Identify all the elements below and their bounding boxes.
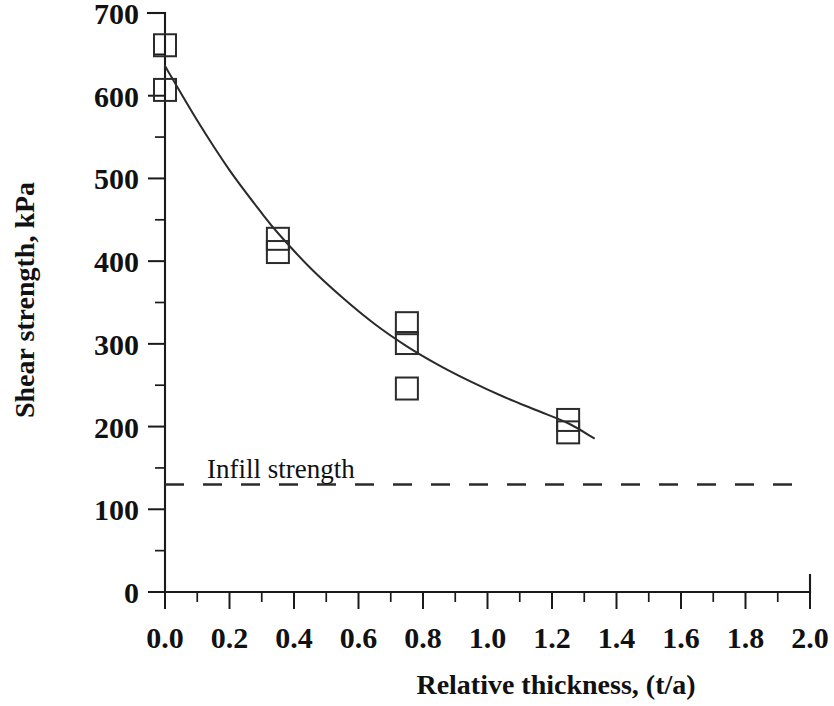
y-tick-label: 0 bbox=[124, 576, 139, 609]
y-axis-title: Shear strength, kPa bbox=[9, 182, 40, 418]
infill-strength-annotation: Infill strength bbox=[165, 454, 810, 485]
data-point-marker bbox=[396, 312, 418, 334]
x-tick-label: 1.0 bbox=[469, 621, 507, 654]
x-tick-label: 2.0 bbox=[791, 621, 829, 654]
y-tick-label: 600 bbox=[94, 80, 139, 113]
y-tick-label: 100 bbox=[94, 493, 139, 526]
y-tick-label: 500 bbox=[94, 162, 139, 195]
x-axis-title: Relative thickness, (t/a) bbox=[416, 669, 695, 700]
figure-container: 0100200300400500600700 0.00.20.40.60.81.… bbox=[0, 0, 834, 706]
y-tick-label: 400 bbox=[94, 245, 139, 278]
infill-strength-label: Infill strength bbox=[207, 454, 355, 484]
y-tick-label: 700 bbox=[94, 0, 139, 30]
data-point-markers bbox=[154, 34, 579, 443]
y-tick-label: 200 bbox=[94, 411, 139, 444]
data-point-marker bbox=[557, 421, 579, 443]
x-axis-ticks: 0.00.20.40.60.81.01.21.41.61.82.0 bbox=[146, 592, 829, 654]
x-tick-label: 1.8 bbox=[727, 621, 765, 654]
data-point-marker bbox=[267, 228, 289, 250]
x-tick-label: 0.8 bbox=[404, 621, 442, 654]
x-tick-label: 0.2 bbox=[211, 621, 249, 654]
x-tick-label: 0.0 bbox=[146, 621, 184, 654]
x-tick-label: 1.6 bbox=[662, 621, 700, 654]
y-tick-label: 300 bbox=[94, 328, 139, 361]
data-point-marker bbox=[267, 241, 289, 263]
axes-frame bbox=[148, 13, 810, 592]
x-tick-label: 1.2 bbox=[533, 621, 571, 654]
fitted-curve bbox=[165, 66, 594, 438]
x-tick-label: 1.4 bbox=[598, 621, 636, 654]
x-tick-label: 0.6 bbox=[340, 621, 378, 654]
data-point-marker bbox=[396, 378, 418, 400]
x-tick-label: 0.4 bbox=[275, 621, 313, 654]
shear-strength-chart: 0100200300400500600700 0.00.20.40.60.81.… bbox=[0, 0, 834, 706]
